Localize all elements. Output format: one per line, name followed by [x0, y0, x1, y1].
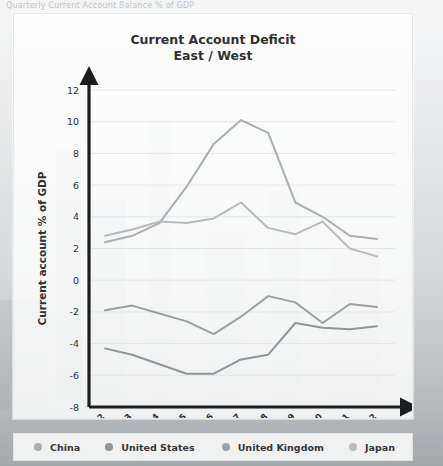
legend-item-label: United Kingdom [238, 442, 324, 453]
y-axis-tick-label: 10 [67, 116, 79, 127]
legend-item-label: United States [121, 442, 194, 453]
legend-item-united-states[interactable]: United States [97, 442, 211, 453]
y-axis-tick-label: -6 [70, 370, 79, 381]
legend-item-label: China [50, 442, 80, 453]
line-chart-svg: -8-6-4-2024681012Current account % of GD… [14, 14, 412, 418]
series-line-china [105, 120, 377, 242]
legend-marker-icon [34, 443, 42, 451]
x-axis-tick-label: 2002 [83, 411, 107, 418]
legend-marker-icon [222, 443, 230, 451]
legend-item-china[interactable]: China [14, 442, 97, 453]
x-axis-tick-label: 2009 [273, 411, 297, 418]
x-axis-tick-label: 2006 [191, 411, 215, 418]
y-axis-tick-label: -4 [70, 338, 79, 349]
y-axis-tick-label: 6 [73, 180, 79, 191]
x-axis-tick-label: 2007 [219, 411, 243, 418]
legend-item-japan[interactable]: Japan [341, 442, 412, 453]
y-axis-tick-label: 12 [67, 85, 79, 96]
background-strip-text: Quarterly Current Account Balance % of G… [6, 0, 336, 11]
y-axis-tick-label: -2 [70, 306, 79, 317]
y-axis-title: Current account % of GDP [36, 171, 48, 325]
chart-legend: ChinaUnited StatesUnited KingdomJapan [13, 433, 413, 461]
legend-item-label: Japan [365, 442, 395, 453]
x-axis-tick-label: 2005 [164, 411, 188, 418]
series-line-united-states [105, 323, 377, 374]
chart-plot-area: -8-6-4-2024681012Current account % of GD… [14, 14, 412, 418]
x-axis-tick-label: 2012 [355, 411, 379, 418]
x-axis-tick-label: 2011 [327, 411, 351, 418]
x-axis-tick-label: 2008 [246, 411, 270, 418]
y-axis-tick-label: 0 [73, 275, 79, 286]
y-axis-tick-label: -8 [70, 402, 79, 413]
y-axis-tick-label: 8 [73, 148, 79, 159]
legend-marker-icon [349, 443, 357, 451]
x-axis-tick-label: 2003 [110, 411, 134, 418]
x-axis-tick-label: 2004 [137, 411, 161, 418]
x-axis-tick-label: 2010 [300, 411, 324, 418]
legend-marker-icon [105, 443, 113, 451]
y-axis-tick-label: 4 [73, 211, 79, 222]
chart-card: Current Account Deficit East / West -8-6… [13, 13, 413, 419]
legend-item-united-kingdom[interactable]: United Kingdom [212, 442, 341, 453]
y-axis-tick-label: 2 [73, 243, 79, 254]
